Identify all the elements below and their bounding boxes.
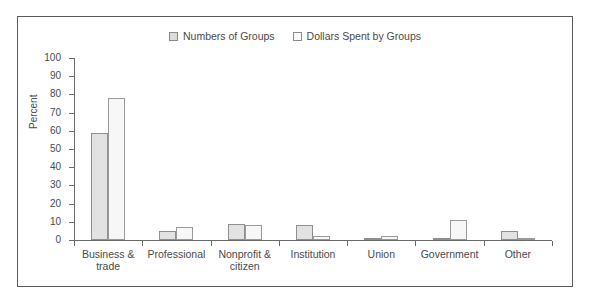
y-tick: 40 (69, 167, 74, 168)
y-tick: 50 (69, 149, 74, 150)
x-tick (552, 241, 553, 246)
x-category-label: Institution (279, 248, 347, 260)
bar (159, 231, 176, 240)
x-tick (74, 241, 75, 246)
x-category-label: Other (484, 248, 552, 260)
y-axis-title: Percent (28, 95, 39, 129)
bar (313, 236, 330, 240)
y-tick-label: 70 (50, 107, 61, 118)
legend-item-numbers-of-groups: Numbers of Groups (169, 31, 275, 42)
y-tick: 80 (69, 94, 74, 95)
bar (296, 225, 313, 240)
y-tick-label: 80 (50, 88, 61, 99)
legend-swatch-icon-series0 (169, 32, 178, 41)
y-tick: 60 (69, 131, 74, 132)
x-category-label: Union (347, 248, 415, 260)
x-category-label: Business & trade (74, 248, 142, 272)
bar (176, 227, 193, 240)
legend-item-dollars-spent-by-groups: Dollars Spent by Groups (293, 31, 421, 42)
y-tick: 90 (69, 76, 74, 77)
y-tick-label: 50 (50, 143, 61, 154)
x-category-label: Professional (142, 248, 210, 260)
x-category-label: Government (415, 248, 483, 260)
bar (518, 238, 535, 240)
bar (433, 238, 450, 240)
bar (228, 224, 245, 240)
y-tick: 10 (69, 222, 74, 223)
y-tick-label: 10 (50, 216, 61, 227)
y-tick-label: 40 (50, 161, 61, 172)
y-tick-label: 20 (50, 198, 61, 209)
y-axis-line (74, 58, 75, 241)
y-tick-label: 60 (50, 125, 61, 136)
bar (364, 238, 381, 240)
x-axis-line (74, 240, 552, 241)
y-tick-label: 30 (50, 179, 61, 190)
y-tick-label: 0 (55, 234, 61, 245)
legend-label-series1: Dollars Spent by Groups (307, 31, 421, 42)
y-tick: 100 (69, 58, 74, 59)
x-category-label: Nonprofit & citizen (211, 248, 279, 272)
y-tick: 20 (69, 204, 74, 205)
y-tick-label: 100 (44, 52, 61, 63)
y-tick-label: 90 (50, 70, 61, 81)
x-tick (211, 241, 212, 246)
x-tick (279, 241, 280, 246)
bar (450, 220, 467, 240)
chart-figure: Numbers of Groups Dollars Spent by Group… (17, 16, 573, 287)
chart-legend: Numbers of Groups Dollars Spent by Group… (18, 31, 572, 42)
x-tick (142, 241, 143, 246)
plot-area: 0102030405060708090100 Business & tradeP… (74, 58, 552, 241)
bar (91, 133, 108, 240)
x-tick (347, 241, 348, 246)
x-tick (484, 241, 485, 246)
bar (381, 236, 398, 240)
legend-swatch-icon-series1 (293, 32, 302, 41)
bar (501, 231, 518, 240)
legend-label-series0: Numbers of Groups (183, 31, 275, 42)
x-tick (415, 241, 416, 246)
y-tick: 30 (69, 185, 74, 186)
y-tick: 70 (69, 113, 74, 114)
bar (108, 98, 125, 240)
bar (245, 225, 262, 240)
